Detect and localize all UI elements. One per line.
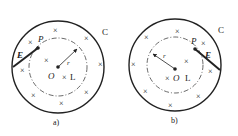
- label-r: r: [67, 59, 70, 67]
- label-p: P: [37, 34, 44, 44]
- label-l: L: [185, 73, 191, 83]
- label-c: C: [102, 27, 108, 37]
- label-c: C: [218, 25, 224, 35]
- label-l: L: [70, 72, 76, 82]
- svg-text:×: ×: [31, 91, 36, 100]
- svg-text:×: ×: [201, 39, 206, 48]
- svg-text:×: ×: [53, 26, 58, 35]
- svg-text:×: ×: [28, 38, 33, 47]
- figure-a: C P E O r L ××× ××× ××× × a): [12, 21, 108, 127]
- svg-text:×: ×: [84, 34, 89, 43]
- label-o: O: [173, 73, 180, 83]
- figure-b: C P E O r L ××× ××× ××× × b): [129, 19, 224, 125]
- svg-text:×: ×: [196, 92, 201, 101]
- label-o: O: [48, 71, 55, 81]
- caption-a: a): [53, 118, 60, 127]
- svg-text:×: ×: [98, 60, 103, 69]
- svg-text:×: ×: [208, 67, 213, 76]
- svg-text:×: ×: [143, 87, 148, 96]
- label-e: E: [16, 50, 23, 60]
- svg-text:×: ×: [59, 99, 64, 108]
- svg-text:×: ×: [184, 57, 189, 66]
- caption-b: b): [171, 116, 178, 125]
- svg-text:×: ×: [84, 88, 89, 97]
- svg-text:×: ×: [165, 74, 170, 83]
- svg-text:×: ×: [20, 66, 25, 75]
- svg-text:×: ×: [44, 56, 49, 65]
- svg-text:×: ×: [62, 73, 67, 82]
- svg-text:×: ×: [175, 27, 180, 36]
- diagram-canvas: C P E O r L ××× ××× ××× × a) C P E O r L…: [0, 0, 238, 136]
- label-p: P: [190, 36, 197, 46]
- label-e: E: [204, 50, 211, 60]
- svg-text:×: ×: [144, 33, 149, 42]
- label-r: r: [163, 52, 166, 60]
- svg-text:×: ×: [168, 101, 173, 110]
- svg-text:×: ×: [131, 60, 136, 69]
